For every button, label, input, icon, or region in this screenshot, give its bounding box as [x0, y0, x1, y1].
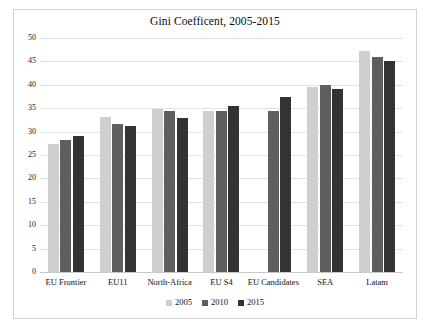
y-axis-tick: 50 [28, 34, 36, 42]
gridline [40, 272, 403, 273]
chart-legend: 200520102015 [14, 298, 416, 307]
legend-label: 2005 [175, 298, 192, 307]
x-axis-tick: Latam [351, 276, 403, 288]
y-axis-tick: 30 [28, 128, 36, 136]
bar[interactable] [359, 51, 370, 272]
bar[interactable] [203, 111, 214, 272]
y-axis-tick: 45 [28, 57, 36, 65]
y-axis-tick: 10 [28, 221, 36, 229]
bar[interactable] [332, 89, 343, 272]
plot-area: 50454035302520151050 [40, 38, 403, 272]
bar-group [92, 38, 144, 272]
y-axis-tick: 5 [32, 245, 36, 253]
bar-group [144, 38, 196, 272]
bar[interactable] [216, 111, 227, 272]
legend-item[interactable]: 2005 [166, 298, 192, 307]
bar[interactable] [280, 97, 291, 273]
bar-group [351, 38, 403, 272]
x-axis-tick: EU11 [92, 276, 144, 288]
bar[interactable] [100, 117, 111, 272]
legend-swatch-icon [202, 300, 208, 306]
x-axis-tick: SEA [299, 276, 351, 288]
chart-title: Gini Coefficent, 2005-2015 [14, 15, 416, 27]
y-axis-tick: 20 [28, 174, 36, 182]
bar[interactable] [384, 61, 395, 272]
bar[interactable] [307, 87, 318, 272]
bar[interactable] [164, 111, 175, 272]
bar[interactable] [152, 109, 163, 272]
bar[interactable] [60, 140, 71, 272]
x-axis-tick: North-Africa [144, 276, 196, 288]
legend-item[interactable]: 2010 [202, 298, 228, 307]
bar-group [196, 38, 248, 272]
bar[interactable] [48, 144, 59, 272]
legend-swatch-icon [238, 300, 244, 306]
x-axis-tick-labels: EU FrontierEU11North-AfricaEU S4EU Candi… [40, 276, 403, 292]
legend-swatch-icon [166, 300, 172, 306]
bar-group [247, 38, 299, 272]
chart-frame: Gini Coefficent, 2005-2015 5045403530252… [13, 9, 417, 319]
legend-label: 2015 [247, 298, 264, 307]
bar[interactable] [268, 111, 279, 272]
bar-group [40, 38, 92, 272]
bar[interactable] [228, 106, 239, 272]
x-axis-tick: EU S4 [196, 276, 248, 288]
y-axis-tick: 15 [28, 198, 36, 206]
y-axis-tick: 25 [28, 151, 36, 159]
bar-series-layer [40, 38, 403, 272]
bar-group [299, 38, 351, 272]
bar[interactable] [73, 136, 84, 272]
y-axis-tick: 0 [32, 268, 36, 276]
bar[interactable] [372, 57, 383, 272]
legend-label: 2010 [211, 298, 228, 307]
x-axis-tick: EU Candidates [247, 276, 299, 288]
x-axis-tick: EU Frontier [40, 276, 92, 288]
legend-item[interactable]: 2015 [238, 298, 264, 307]
y-axis-tick: 40 [28, 81, 36, 89]
bar[interactable] [125, 126, 136, 272]
bar[interactable] [177, 118, 188, 272]
bar[interactable] [112, 124, 123, 272]
y-axis-tick: 35 [28, 104, 36, 112]
bar[interactable] [320, 85, 331, 272]
